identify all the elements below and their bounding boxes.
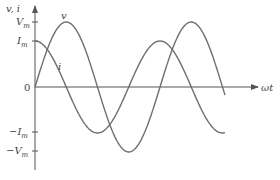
curve-label-v: v [61,11,67,21]
tick-label-neg-im: −Im [9,127,28,141]
waveform-diagram [0,0,280,180]
origin-label: 0 [24,83,30,93]
tick-label-neg-vm: −Vm [6,146,28,160]
tick-label-vm: Vm [16,17,30,31]
tick-label-im: Im [17,36,28,50]
y-axis-label: v, i [6,4,20,14]
x-axis-label: ωt [261,83,273,93]
curve-label-i: i [58,62,61,72]
